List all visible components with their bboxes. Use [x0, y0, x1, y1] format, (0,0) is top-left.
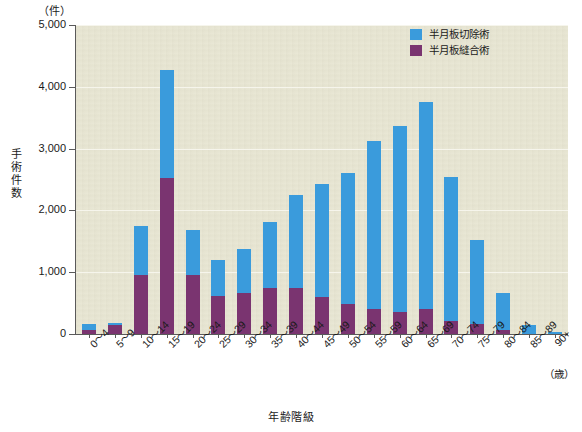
- legend: 半月板切除術半月板縫合術: [410, 28, 489, 60]
- bar-segment-meniscus-repair: [134, 275, 148, 334]
- y-axis-unit-label: （件）: [38, 2, 71, 18]
- plot-area: [76, 25, 568, 334]
- y-axis-tick-label: 5,000: [0, 18, 66, 30]
- legend-swatch-meniscectomy: [410, 29, 422, 40]
- bar-group: [367, 25, 381, 334]
- y-axis-tick: [69, 87, 75, 88]
- bar-segment-meniscectomy: [419, 102, 433, 309]
- y-axis-tick-label: 3,000: [0, 142, 66, 154]
- bar-segment-meniscectomy: [393, 126, 407, 312]
- y-axis-line: [75, 25, 76, 335]
- bar-group: [393, 25, 407, 334]
- bar-group: [134, 25, 148, 334]
- bar-group: [419, 25, 433, 334]
- bar-segment-meniscectomy: [237, 249, 251, 293]
- x-axis-title: 年齢階級: [0, 408, 582, 424]
- bar-group: [289, 25, 303, 334]
- y-axis-tick: [69, 25, 75, 26]
- bar-group: [263, 25, 277, 334]
- bar-group: [82, 25, 96, 334]
- bar-segment-meniscectomy: [82, 324, 96, 330]
- bar-segment-meniscectomy: [160, 70, 174, 178]
- bar-segment-meniscectomy: [289, 195, 303, 288]
- bar-segment-meniscectomy: [444, 177, 458, 321]
- bar-group: [444, 25, 458, 334]
- bar-group: [496, 25, 510, 334]
- y-axis-title: 手術件数: [8, 148, 24, 200]
- bar-group: [211, 25, 225, 334]
- y-axis-tick: [69, 149, 75, 150]
- bar-group: [108, 25, 122, 334]
- legend-label: 半月板切除術: [429, 29, 489, 40]
- bar-group: [186, 25, 200, 334]
- bar-group: [237, 25, 251, 334]
- bar-segment-meniscus-repair: [160, 178, 174, 334]
- y-axis-tick-label: 2,000: [0, 203, 66, 215]
- legend-label: 半月板縫合術: [429, 45, 489, 56]
- y-axis-tick-label: 4,000: [0, 80, 66, 92]
- bar-group: [470, 25, 484, 334]
- legend-item: 半月板切除術: [410, 28, 489, 41]
- bar-segment-meniscectomy: [134, 226, 148, 275]
- bar-group: [548, 25, 562, 334]
- y-axis-tick: [69, 334, 75, 335]
- surgery-count-bar-chart: （件） 手術件数 5,0004,0003,0002,0001,0000 0〜45…: [0, 0, 582, 432]
- y-axis-tick-label: 0: [0, 327, 66, 339]
- bar-segment-meniscectomy: [315, 184, 329, 296]
- bar-segment-meniscectomy: [186, 230, 200, 274]
- bar-segment-meniscectomy: [263, 222, 277, 288]
- y-axis-tick-label: 1,000: [0, 265, 66, 277]
- x-axis-unit-label: （歳）: [544, 366, 574, 381]
- bar-segment-meniscectomy: [470, 240, 484, 324]
- y-axis-tick: [69, 210, 75, 211]
- y-axis-tick: [69, 272, 75, 273]
- bar-segment-meniscectomy: [211, 260, 225, 296]
- legend-item: 半月板縫合術: [410, 44, 489, 57]
- bar-group: [341, 25, 355, 334]
- bar-group: [315, 25, 329, 334]
- bar-segment-meniscectomy: [108, 323, 122, 325]
- bar-group: [522, 25, 536, 334]
- bar-segment-meniscectomy: [341, 173, 355, 303]
- bar-segment-meniscectomy: [367, 141, 381, 309]
- legend-swatch-meniscus-repair: [410, 45, 422, 56]
- bar-group: [160, 25, 174, 334]
